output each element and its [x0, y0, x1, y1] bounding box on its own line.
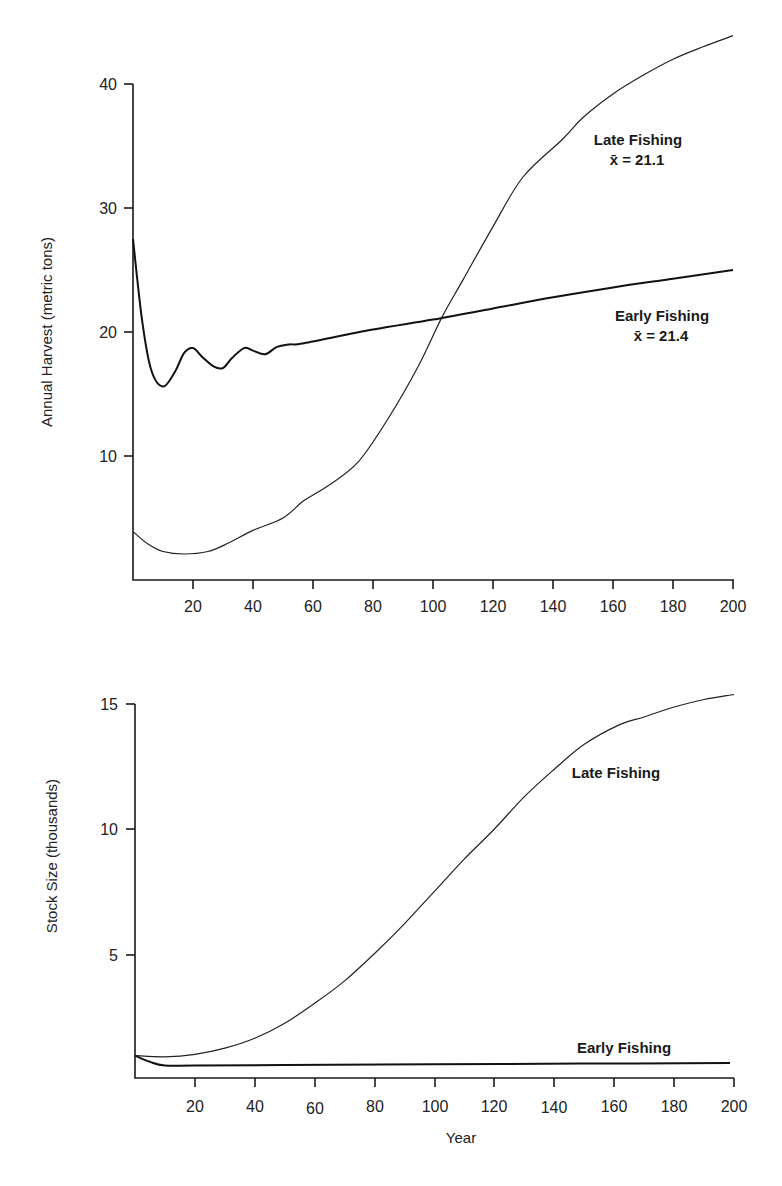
- svg-text:100: 100: [420, 598, 447, 615]
- svg-text:40: 40: [244, 598, 262, 615]
- svg-text:30: 30: [99, 200, 117, 217]
- harvest-y-axis-title: Annual Harvest (metric tons): [38, 237, 55, 427]
- svg-text:20: 20: [184, 598, 202, 615]
- harvest-x-ticks: [193, 580, 733, 589]
- stock-x-ticks: [195, 1078, 734, 1087]
- svg-text:120: 120: [480, 598, 507, 615]
- harvest-x-tick-labels: 20 40 60 80 100 120 140 160 180 200: [184, 598, 746, 615]
- svg-text:60: 60: [304, 598, 322, 615]
- svg-text:160: 160: [601, 1098, 628, 1115]
- svg-text:120: 120: [481, 1098, 508, 1115]
- svg-text:200: 200: [720, 598, 747, 615]
- svg-text:5: 5: [109, 947, 118, 964]
- stock-early-fishing-line: [135, 1056, 730, 1066]
- stock-late-fishing-label: Late Fishing: [572, 764, 660, 781]
- stock-y-tick-labels: 15 10 5: [100, 696, 118, 964]
- svg-text:140: 140: [541, 1099, 568, 1116]
- stock-chart: 15 10 5 20 40 60 80 100 120 140 160 180: [43, 695, 747, 1147]
- svg-text:40: 40: [246, 1098, 264, 1115]
- svg-text:20: 20: [99, 324, 117, 341]
- svg-text:20: 20: [186, 1098, 204, 1115]
- harvest-early-fishing-label: Early Fishing: [615, 307, 709, 324]
- stock-x-tick-labels: 20 40 60 80 100 120 140 160 180 200: [186, 1098, 747, 1117]
- svg-text:80: 80: [366, 1098, 384, 1115]
- svg-text:40: 40: [99, 76, 117, 93]
- svg-text:140: 140: [540, 598, 567, 615]
- svg-text:200: 200: [721, 1098, 748, 1115]
- harvest-late-fishing-mean: x̄ = 21.1: [610, 151, 665, 168]
- svg-text:10: 10: [100, 821, 118, 838]
- svg-text:180: 180: [661, 1098, 688, 1115]
- stock-early-fishing-label: Early Fishing: [577, 1039, 671, 1056]
- harvest-early-fishing-mean: x̄ = 21.4: [634, 327, 689, 344]
- svg-text:15: 15: [100, 696, 118, 713]
- harvest-y-ticks: [124, 84, 133, 456]
- svg-text:180: 180: [660, 598, 687, 615]
- stock-x-axis-title: Year: [446, 1129, 476, 1146]
- svg-text:10: 10: [99, 448, 117, 465]
- svg-text:100: 100: [422, 1098, 449, 1115]
- figure-canvas: 40 30 20 10 20 40 60 80 100 120 140 160: [0, 0, 782, 1186]
- harvest-late-fishing-line: [133, 36, 733, 554]
- harvest-y-tick-labels: 40 30 20 10: [99, 76, 117, 465]
- stock-late-fishing-line: [135, 695, 734, 1057]
- harvest-late-fishing-label: Late Fishing: [594, 131, 682, 148]
- svg-text:160: 160: [600, 598, 627, 615]
- svg-text:80: 80: [364, 598, 382, 615]
- svg-text:60: 60: [306, 1100, 324, 1117]
- stock-y-ticks: [126, 704, 135, 955]
- stock-y-axis-title: Stock Size (thousands): [43, 779, 60, 933]
- harvest-chart: 40 30 20 10 20 40 60 80 100 120 140 160: [38, 36, 746, 615]
